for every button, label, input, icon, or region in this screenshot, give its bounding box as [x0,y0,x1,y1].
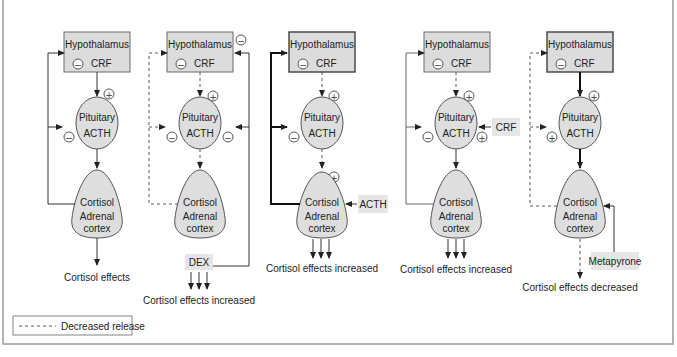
svg-text:−: − [65,133,73,143]
adrenal-label: Adrenal [80,211,114,222]
hpa-axis-diagram: Hypothalamus − CRF + Pituitary ACTH − Co… [0,0,677,357]
acth-label: ACTH [308,128,335,139]
legend: Decreased release [13,316,145,335]
hypothalamus-label: Hypothalamus [168,39,232,50]
cortisol-label: Cortisol [183,197,217,208]
effect-label: Cortisol effects increased [266,263,378,274]
minus-sign-icon: − [556,59,566,70]
effect-label: Cortisol effects increased [143,295,255,306]
crf-label: CRF [91,58,112,69]
strong-feedback-to-hypothalamus [271,53,300,204]
minus-sign-icon: − [73,59,83,70]
minus-sign-icon: − [236,35,246,46]
minus-sign-icon: − [167,132,177,143]
svg-text:−: − [177,60,185,70]
hypothalamus-label: Hypothalamus [548,39,612,50]
pituitary-label: Pituitary [562,112,598,123]
plus-sign-icon: + [104,89,114,100]
pituitary-node [179,97,221,149]
pituitary-node [435,97,477,149]
minus-sign-icon: − [289,132,299,143]
svg-text:−: − [237,36,245,46]
panel-metapyrone: Hypothalamus − CRF + Pituitary ACTH + Co… [522,32,642,293]
acth-label: ACTH [442,128,469,139]
panel-dex: Hypothalamus − CRF − + Pituitary ACTH − … [143,32,255,306]
acth-drug-label: ACTH [359,199,386,210]
svg-text:+: + [105,90,113,100]
feedback-to-hypothalamus [406,53,434,204]
cortisol-label: Cortisol [305,197,339,208]
crf-label: CRF [316,58,337,69]
cortex-label: cortex [442,223,469,234]
svg-text:−: − [224,133,232,143]
cortisol-label: Cortisol [80,197,114,208]
svg-text:+: + [478,133,486,143]
adrenal-label: Adrenal [563,211,597,222]
minus-sign-icon: − [223,132,233,143]
svg-text:−: − [168,133,176,143]
legend-label: Decreased release [61,321,145,332]
dex-label: DEX [189,257,210,268]
crf-label: CRF [574,58,595,69]
svg-text:−: − [290,133,298,143]
adrenal-label: Adrenal [439,211,473,222]
minus-sign-icon: − [433,59,443,70]
plus-sign-icon: + [547,132,557,143]
minus-sign-icon: − [423,132,433,143]
cortisol-label: Cortisol [439,197,473,208]
effect-label: Cortisol effects increased [400,264,512,275]
adrenal-label: Adrenal [183,211,217,222]
hypothalamus-label: Hypothalamus [290,39,354,50]
svg-text:−: − [434,60,442,70]
acth-label: ACTH [83,128,110,139]
effect-label: Cortisol effects [64,272,130,283]
crf-drug-label: CRF [496,122,517,133]
hypothalamus-label: Hypothalamus [65,39,129,50]
metapyrone-arrow [604,206,614,252]
crf-label: CRF [194,58,215,69]
pituitary-label: Pituitary [182,112,218,123]
svg-text:−: − [299,60,307,70]
svg-text:−: − [557,60,565,70]
cortisol-label: Cortisol [563,197,597,208]
plus-sign-icon: + [477,132,487,143]
pituitary-node [559,97,601,149]
crf-label: CRF [451,58,472,69]
pituitary-label: Pituitary [79,112,115,123]
adrenal-label: Adrenal [305,211,339,222]
cortex-label: cortex [308,223,335,234]
panel-acth: Hypothalamus − CRF + Pituitary ACTH − + … [266,32,388,274]
pituitary-label: Pituitary [304,112,340,123]
hypothalamus-label: Hypothalamus [425,39,489,50]
metapyrone-label: Metapyrone [589,256,642,267]
panel-crf: Hypothalamus − CRF + Pituitary ACTH − + … [400,32,520,275]
dashed-feedback-to-hypothalamus [149,53,178,204]
svg-text:−: − [74,60,82,70]
acth-label: ACTH [186,128,213,139]
feedback-to-hypothalamus [48,53,75,204]
cortex-label: cortex [186,223,213,234]
dashed-feedback-to-hypothalamus [530,53,557,206]
svg-text:+: + [590,92,598,102]
acth-label: ACTH [566,128,593,139]
svg-text:+: + [548,133,556,143]
pituitary-node [76,97,118,149]
minus-sign-icon: − [176,59,186,70]
minus-sign-icon: − [64,132,74,143]
panel-normal: Hypothalamus − CRF + Pituitary ACTH − Co… [48,32,130,283]
svg-text:−: − [424,133,432,143]
cortex-label: cortex [83,223,110,234]
effect-label: Cortisol effects decreased [522,282,637,293]
minus-sign-icon: − [298,59,308,70]
pituitary-label: Pituitary [438,112,474,123]
pituitary-node [301,97,343,149]
cortex-label: cortex [566,223,593,234]
